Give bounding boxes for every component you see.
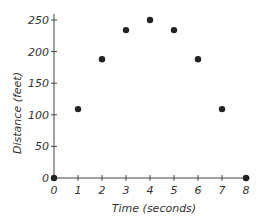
x-tick-label: 2: [99, 184, 106, 197]
x-tick-label: 3: [123, 184, 130, 197]
x-tick-label: 5: [171, 184, 178, 197]
y-tick-label: 50: [35, 140, 49, 153]
data-point: [99, 56, 105, 62]
x-tick-label: 6: [195, 184, 202, 197]
x-tick-label: 4: [147, 184, 154, 197]
data-point: [171, 27, 177, 33]
x-tick-label: 7: [219, 184, 226, 197]
y-tick-label: 250: [28, 14, 49, 27]
x-axis-label: Time (seconds): [112, 202, 196, 215]
data-point: [75, 106, 81, 112]
y-tick-label: 100: [28, 109, 49, 122]
scatter-chart: 012345678050100150200250Time (seconds)Di…: [0, 0, 270, 223]
y-tick-label: 0: [42, 172, 49, 185]
data-point: [147, 17, 153, 23]
data-point: [195, 56, 201, 62]
y-tick-label: 150: [28, 77, 49, 90]
data-point: [123, 27, 129, 33]
x-tick-label: 8: [243, 184, 250, 197]
data-point: [243, 175, 249, 181]
y-axis-label: Distance (feet): [11, 72, 24, 154]
x-tick-label: 0: [51, 184, 58, 197]
y-tick-label: 200: [28, 46, 49, 59]
x-tick-label: 1: [75, 184, 82, 197]
data-point: [219, 106, 225, 112]
data-point: [51, 175, 57, 181]
